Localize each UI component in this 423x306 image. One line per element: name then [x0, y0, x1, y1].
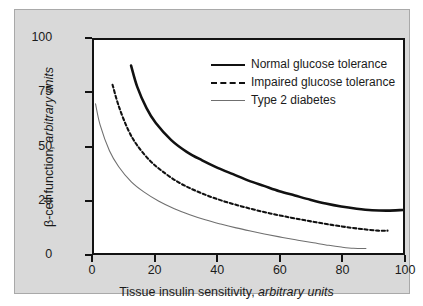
x-tick-label: 40	[210, 263, 224, 277]
legend-label: Type 2 diabetes	[251, 93, 336, 107]
x-tick-label: 20	[148, 263, 162, 277]
curve-type-2-diabetes	[96, 104, 366, 249]
figure-root: 0255075100 020406080100 Normal glucose t…	[0, 0, 423, 306]
x-tick-label: 0	[89, 263, 96, 277]
legend-item: Impaired glucose tolerance	[211, 74, 395, 89]
y-axis-title-main: β-cell function,	[42, 146, 56, 227]
y-tick-mark	[85, 146, 92, 148]
x-axis-title-main: Tissue insulin sensitivity,	[119, 285, 254, 299]
legend-item: Normal glucose tolerance	[211, 56, 395, 71]
legend: Normal glucose toleranceImpaired glucose…	[211, 56, 395, 107]
x-tick-mark	[154, 255, 156, 262]
x-tick-mark	[279, 255, 281, 262]
x-tick-label: 80	[336, 263, 350, 277]
y-tick-label: 0	[45, 247, 52, 261]
legend-swatch-solid-thick	[211, 59, 245, 69]
x-tick-label: 60	[273, 263, 287, 277]
legend-item: Type 2 diabetes	[211, 92, 395, 107]
legend-label: Impaired glucose tolerance	[251, 75, 395, 89]
legend-swatch-solid-thin	[211, 95, 245, 105]
y-tick-label: 100	[31, 30, 52, 44]
y-tick-mark	[85, 37, 92, 39]
legend-label: Normal glucose tolerance	[251, 57, 387, 71]
y-axis-title: β-cell function, arbitrary units	[42, 47, 56, 247]
x-axis-title-units: arbitrary units	[258, 285, 334, 299]
x-tick-label: 100	[395, 263, 416, 277]
legend-swatch-dashed	[211, 77, 245, 87]
figure-panel: 0255075100 020406080100 Normal glucose t…	[14, 9, 410, 294]
x-tick-mark	[404, 255, 406, 262]
x-axis-title: Tissue insulin sensitivity, arbitrary un…	[15, 285, 423, 299]
x-tick-mark	[91, 255, 93, 262]
x-tick-mark	[216, 255, 218, 262]
y-tick-mark	[85, 200, 92, 202]
y-axis-title-units: arbitrary units	[42, 67, 56, 143]
x-tick-mark	[341, 255, 343, 262]
y-tick-mark	[85, 91, 92, 93]
